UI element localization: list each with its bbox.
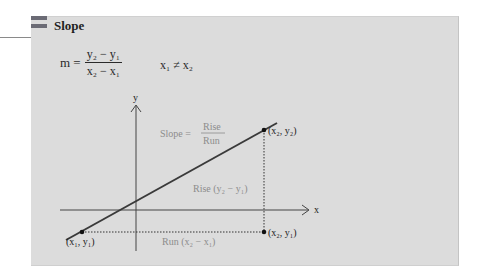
slope-label-run: Run bbox=[203, 135, 220, 146]
y-axis bbox=[131, 105, 141, 251]
slope-label: Slope = bbox=[160, 128, 191, 139]
y-axis-label: y bbox=[133, 92, 138, 103]
run-label: Run (x₂ − x₁) bbox=[162, 236, 215, 248]
point-label-x2-y1: (x₂, y₁) bbox=[268, 227, 297, 239]
x-axis bbox=[60, 205, 309, 215]
point-label-x2-y2: (x₂, y₂) bbox=[268, 125, 297, 137]
point-x1-y1 bbox=[80, 230, 85, 235]
point-label-x1-y1: (x₁, y₁) bbox=[66, 236, 95, 248]
slope-label-rise: Rise bbox=[203, 121, 221, 132]
rise-label: Rise (y₂ − y₁) bbox=[193, 183, 248, 195]
x-axis-label: x bbox=[314, 204, 319, 215]
slope-line bbox=[66, 123, 277, 240]
point-x2-y1 bbox=[262, 230, 267, 235]
slope-diagram: y x (x₁, y₁) (x₂, y₂) (x₂, y₁) Slope = R… bbox=[0, 0, 481, 273]
point-x2-y2 bbox=[262, 128, 267, 133]
